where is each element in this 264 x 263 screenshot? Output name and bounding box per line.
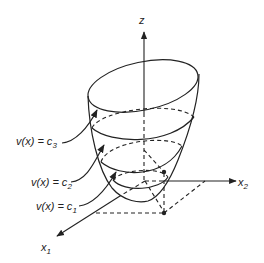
lyapunov-level-set-diagram: z x2 x1 v(x) = c3 v(x) = c2 v(x) = c1 [0, 0, 264, 263]
x1-axis-label: x1 [40, 241, 51, 256]
level-set-label-c3: v(x) = c3 [16, 135, 57, 150]
label-leaders [62, 110, 116, 206]
z-axis-label: z [138, 14, 145, 26]
x2-axis-label: x2 [237, 176, 249, 191]
level-set-label-c1: v(x) = c1 [36, 200, 77, 215]
plane-point [162, 211, 166, 215]
level-set-label-c2: v(x) = c2 [31, 176, 72, 191]
surface-point [162, 170, 166, 174]
projection-lines [96, 150, 205, 215]
bowl-surface [83, 51, 203, 202]
